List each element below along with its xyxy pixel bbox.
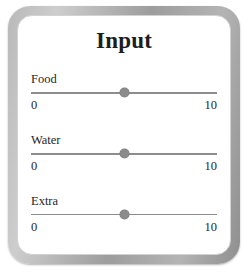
- slider-list: Food 0 10 Water 0 10: [18, 72, 230, 234]
- slider-label-extra: Extra: [31, 194, 217, 210]
- slider-handle-extra[interactable]: [120, 210, 129, 219]
- slider-max-label: 10: [205, 159, 218, 173]
- slider-handle-food[interactable]: [120, 88, 129, 97]
- slider-water[interactable]: [31, 149, 217, 158]
- slider-scale: 0 10: [31, 97, 217, 112]
- slider-label-water: Water: [31, 133, 217, 149]
- slider-label-food: Food: [31, 72, 217, 88]
- slider-handle-water[interactable]: [120, 149, 129, 158]
- input-panel: Input Food 0 10 Water: [17, 15, 231, 255]
- slider-max-label: 10: [205, 220, 218, 234]
- slider-extra[interactable]: [31, 210, 217, 219]
- slider-scale: 0 10: [31, 158, 217, 173]
- slider-min-label: 0: [31, 220, 37, 234]
- slider-min-label: 0: [31, 159, 37, 173]
- input-panel-frame: Input Food 0 10 Water: [8, 6, 240, 264]
- slider-min-label: 0: [31, 98, 37, 112]
- slider-max-label: 10: [205, 98, 218, 112]
- slider-scale: 0 10: [31, 219, 217, 234]
- page-title: Input: [18, 16, 230, 52]
- slider-row: Extra 0 10: [31, 194, 217, 235]
- slider-food[interactable]: [31, 88, 217, 97]
- slider-row: Food 0 10: [31, 72, 217, 113]
- slider-row: Water 0 10: [31, 133, 217, 174]
